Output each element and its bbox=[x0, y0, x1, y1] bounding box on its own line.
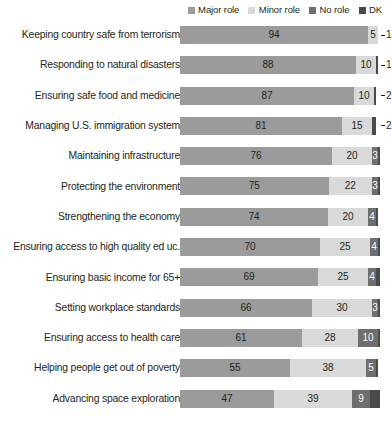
bar-segment-dk bbox=[378, 147, 380, 165]
row-category-label: Responding to natural disasters bbox=[40, 50, 180, 80]
bar-segment-minor: 10 bbox=[354, 87, 374, 105]
row-category-label: Helping people get out of poverty bbox=[34, 353, 180, 383]
stacked-bar: 69254 bbox=[180, 268, 380, 286]
chart-row: Maintaining infrastructure76203 bbox=[0, 141, 388, 171]
bar-value-label: 10 bbox=[362, 333, 373, 343]
bar-value-label: 74 bbox=[248, 212, 259, 222]
bar-value-label: 5 bbox=[368, 363, 374, 373]
bar-value-label: 22 bbox=[345, 181, 356, 191]
bar-value-label: 87 bbox=[261, 91, 272, 101]
bar-segment-no: 10 bbox=[358, 329, 378, 347]
callout-leader-line bbox=[381, 35, 385, 36]
bar-segment-no: 4 bbox=[368, 208, 376, 226]
bar-segment-no: 4 bbox=[370, 238, 378, 256]
chart-row: Ensuring access to high quality ed uc.70… bbox=[0, 232, 388, 262]
chart-row: Protecting the environment75223 bbox=[0, 171, 388, 201]
bar-value-label: 15 bbox=[351, 121, 362, 131]
bar-segment-major: 88 bbox=[180, 56, 356, 74]
callout-value-label: 2 bbox=[386, 121, 392, 131]
bar-segment-minor: 25 bbox=[318, 268, 368, 286]
callout-value-label: 1 bbox=[386, 30, 392, 40]
bar-value-label: 9 bbox=[358, 394, 364, 404]
chart-row: Helping people get out of poverty55385 bbox=[0, 353, 388, 383]
row-category-label: Managing U.S. immigration system bbox=[25, 111, 180, 141]
bar-value-label: 66 bbox=[240, 303, 251, 313]
bar-segment-dk bbox=[376, 359, 378, 377]
bar-segment-major: 75 bbox=[180, 177, 329, 195]
chart-row: Ensuring basic income for 65+69254 bbox=[0, 262, 388, 292]
row-category-label: Strengthening the economy bbox=[58, 202, 180, 232]
bar-segment-dk bbox=[378, 238, 380, 256]
legend-label-major: Major role bbox=[198, 5, 239, 15]
bar-value-label: 20 bbox=[342, 212, 353, 222]
bar-segment-dk bbox=[376, 268, 380, 286]
chart-row: Setting workplace standards66303 bbox=[0, 293, 388, 323]
bar-segment-no: 9 bbox=[352, 390, 370, 408]
stacked-bar: 8710 bbox=[180, 87, 380, 105]
bar-segment-dk bbox=[370, 390, 380, 408]
bar-segment-major: 47 bbox=[180, 390, 274, 408]
bar-value-label: 4 bbox=[369, 212, 375, 222]
bar-value-label: 55 bbox=[229, 363, 240, 373]
legend-swatch-minor bbox=[248, 7, 255, 14]
bar-value-label: 3 bbox=[372, 303, 378, 313]
row-category-label: Ensuring basic income for 65+ bbox=[46, 262, 180, 292]
stacked-bar: 8115 bbox=[180, 117, 380, 135]
bar-value-label: 5 bbox=[370, 30, 376, 40]
stacked-bar-chart: Keeping country safe from terrorism9451R… bbox=[0, 20, 388, 435]
bar-segment-minor: 28 bbox=[302, 329, 358, 347]
stacked-bar: 612810 bbox=[180, 329, 380, 347]
legend-label-minor: Minor role bbox=[259, 5, 300, 15]
bar-value-label: 47 bbox=[221, 394, 232, 404]
chart-row: Ensuring access to health care612810 bbox=[0, 323, 388, 353]
bar-value-label: 25 bbox=[337, 272, 348, 282]
bar-segment-major: 94 bbox=[180, 26, 368, 44]
row-category-label: Ensuring access to health care bbox=[44, 323, 180, 353]
bar-segment-major: 70 bbox=[180, 238, 320, 256]
bar-segment-minor: 20 bbox=[332, 147, 372, 165]
bar-segment-minor: 22 bbox=[329, 177, 373, 195]
stacked-bar: 55385 bbox=[180, 359, 380, 377]
bar-segment-minor: 20 bbox=[328, 208, 368, 226]
stacked-bar: 66303 bbox=[180, 299, 380, 317]
bar-value-label: 20 bbox=[346, 151, 357, 161]
bar-segment-minor: 5 bbox=[368, 26, 378, 44]
bar-segment-major: 55 bbox=[180, 359, 290, 377]
legend-item-dk: DK bbox=[359, 5, 383, 15]
bar-segment-major: 81 bbox=[180, 117, 342, 135]
bar-segment-major: 87 bbox=[180, 87, 354, 105]
bar-value-label: 3 bbox=[372, 151, 378, 161]
row-category-label: Advancing space exploration bbox=[53, 384, 180, 414]
stacked-bar: 76203 bbox=[180, 147, 380, 165]
callout-leader-line bbox=[381, 125, 385, 126]
chart-row: Responding to natural disasters88101 bbox=[0, 50, 388, 80]
bar-segment-no: 4 bbox=[368, 268, 376, 286]
callout-leader-line bbox=[381, 65, 385, 66]
bar-segment-minor: 39 bbox=[274, 390, 352, 408]
bar-value-label: 39 bbox=[307, 394, 318, 404]
legend-swatch-dk bbox=[359, 7, 366, 14]
row-category-label: Ensuring access to high quality ed uc. bbox=[13, 232, 180, 262]
stacked-bar: 74204 bbox=[180, 208, 380, 226]
bar-value-label: 94 bbox=[268, 30, 279, 40]
bar-segment-dk bbox=[376, 56, 378, 74]
chart-row: Strengthening the economy74204 bbox=[0, 202, 388, 232]
legend-swatch-major bbox=[188, 7, 195, 14]
bar-value-label: 38 bbox=[322, 363, 333, 373]
stacked-bar: 70254 bbox=[180, 238, 380, 256]
bar-segment-dk bbox=[372, 117, 376, 135]
bar-segment-no: 5 bbox=[366, 359, 376, 377]
bar-segment-minor: 38 bbox=[290, 359, 366, 377]
stacked-bar: 8810 bbox=[180, 56, 380, 74]
bar-callout-no-role: 1 bbox=[381, 56, 392, 74]
legend-item-minor: Minor role bbox=[248, 5, 300, 15]
bar-segment-dk bbox=[378, 299, 380, 317]
bar-segment-major: 69 bbox=[180, 268, 318, 286]
bar-callout-no-role: 1 bbox=[381, 26, 392, 44]
bar-value-label: 75 bbox=[249, 181, 260, 191]
bar-segment-minor: 30 bbox=[312, 299, 372, 317]
callout-value-label: 1 bbox=[386, 60, 392, 70]
bar-segment-major: 76 bbox=[180, 147, 332, 165]
bar-value-label: 4 bbox=[369, 272, 375, 282]
bar-value-label: 25 bbox=[339, 242, 350, 252]
